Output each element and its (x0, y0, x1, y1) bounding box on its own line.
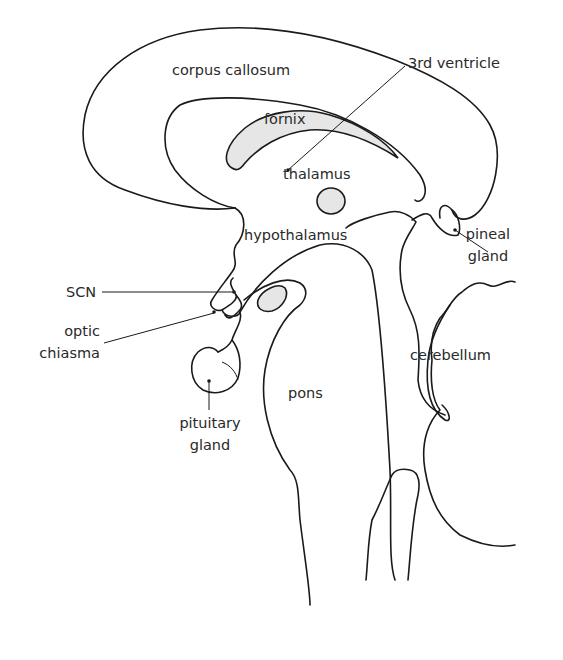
aqueduct-outline (346, 212, 445, 415)
label-pineal-line2: gland (458, 245, 518, 267)
label-optic-chiasma: optic chiasma (36, 320, 100, 364)
scn-dot (232, 290, 236, 294)
fornix-shape (226, 111, 398, 170)
pituitary-gland-outline (192, 340, 240, 393)
thalamus-nucleus (317, 188, 345, 214)
pineal-gland-outline (412, 210, 460, 236)
label-third-ventricle: 3rd ventricle (408, 52, 500, 74)
optic-chiasma-leader (104, 313, 214, 343)
label-pons: pons (288, 382, 323, 404)
mammillary-body (258, 286, 287, 312)
label-pineal-line1: pineal (458, 223, 518, 245)
label-thalamus: thalamus (283, 163, 351, 185)
label-corpus-callosum: corpus callosum (172, 59, 290, 81)
pituitary-dot (207, 379, 211, 383)
label-pituitary-gland: pituitary gland (160, 412, 260, 456)
hypothalamus-wall (211, 208, 244, 310)
label-pineal-gland: pineal gland (458, 223, 518, 267)
label-scn: SCN (66, 281, 96, 303)
label-optic-line1: optic (36, 320, 100, 342)
label-pituitary-line2: gland (160, 434, 260, 456)
label-cerebellum: cerebellum (410, 344, 491, 366)
pineal-dot (453, 228, 457, 232)
optic-chiasma-outline (218, 310, 241, 352)
optic-chiasma-dot (212, 310, 216, 314)
brain-diagram: corpus callosum 3rd ventricle fornix tha… (0, 0, 563, 660)
label-pituitary-line1: pituitary (160, 412, 260, 434)
pituitary-lobe-line (222, 362, 238, 380)
label-optic-line2: chiasma (36, 342, 100, 364)
label-hypothalamus: hypothalamus (244, 224, 347, 246)
label-fornix: fornix (264, 108, 305, 130)
